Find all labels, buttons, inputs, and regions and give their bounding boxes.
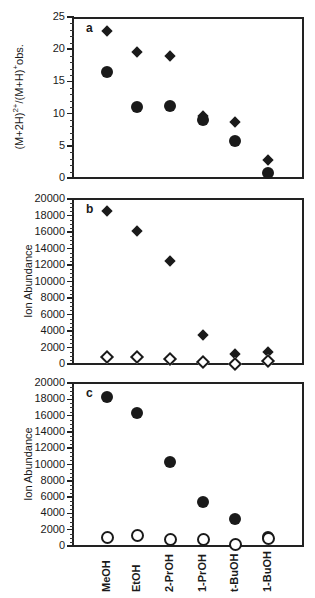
y-minor-tick xyxy=(70,485,74,486)
y-minor-tick xyxy=(70,440,74,441)
y-major-tick xyxy=(67,431,74,433)
y-major-tick xyxy=(67,81,74,83)
y-tick-label: 6000 xyxy=(5,308,65,320)
data-point-open-circle xyxy=(197,533,210,546)
y-major-tick xyxy=(67,447,74,449)
data-point-filled-circle xyxy=(197,496,209,508)
y-minor-tick xyxy=(70,542,74,543)
x-category-label: 1-BuOH xyxy=(261,551,273,592)
y-tick-label: 6000 xyxy=(5,490,65,502)
y-minor-tick xyxy=(70,23,74,24)
y-major-tick xyxy=(67,248,74,250)
y-minor-tick xyxy=(70,327,74,328)
y-major-tick xyxy=(67,231,74,233)
y-minor-tick xyxy=(70,522,74,523)
y-tick-label: 20000 xyxy=(5,376,65,388)
y-tick-label: 10000 xyxy=(5,275,65,287)
y-minor-tick xyxy=(70,343,74,344)
y-minor-tick xyxy=(70,30,74,31)
y-tick-label: 18000 xyxy=(5,392,65,404)
y-major-tick xyxy=(67,48,74,50)
data-point-filled-circle xyxy=(164,456,176,468)
y-minor-tick xyxy=(70,360,74,361)
y-tick-label: 5 xyxy=(5,139,65,151)
x-category-label: 2-PrOH xyxy=(163,554,175,592)
y-major-tick xyxy=(67,464,74,466)
panel-a-letter: a xyxy=(86,21,93,35)
y-tick-label: 4000 xyxy=(5,324,65,336)
panel-b-letter: b xyxy=(86,202,93,216)
y-minor-tick xyxy=(70,436,74,437)
y-minor-tick xyxy=(70,269,74,270)
x-category-label: t-BuOH xyxy=(228,554,240,593)
y-minor-tick xyxy=(70,460,74,461)
y-minor-tick xyxy=(70,133,74,134)
y-minor-tick xyxy=(70,211,74,212)
y-minor-tick xyxy=(70,224,74,225)
y-major-tick xyxy=(67,480,74,482)
y-minor-tick xyxy=(70,159,74,160)
y-minor-tick xyxy=(70,75,74,76)
y-minor-tick xyxy=(70,107,74,108)
y-minor-tick xyxy=(70,473,74,474)
y-major-tick xyxy=(67,297,74,299)
data-point-open-circle xyxy=(229,538,242,551)
y-minor-tick xyxy=(70,387,74,388)
y-minor-tick xyxy=(70,335,74,336)
y-major-tick xyxy=(67,496,74,498)
y-minor-tick xyxy=(70,240,74,241)
data-point-filled-circle xyxy=(101,391,113,403)
y-minor-tick xyxy=(70,286,74,287)
y-minor-tick xyxy=(70,517,74,518)
y-minor-tick xyxy=(70,120,74,121)
y-tick-label: 14000 xyxy=(5,425,65,437)
y-minor-tick xyxy=(70,339,74,340)
y-major-tick xyxy=(67,399,74,401)
y-minor-tick xyxy=(70,43,74,44)
y-minor-tick xyxy=(70,352,74,353)
y-major-tick xyxy=(67,215,74,217)
y-major-tick xyxy=(67,529,74,531)
y-major-tick xyxy=(67,415,74,417)
y-major-tick xyxy=(67,314,74,316)
y-tick-label: 16000 xyxy=(5,225,65,237)
y-minor-tick xyxy=(70,126,74,127)
x-category-label: EtOH xyxy=(130,565,142,593)
y-minor-tick xyxy=(70,101,74,102)
y-tick-label: 10 xyxy=(5,107,65,119)
y-minor-tick xyxy=(70,302,74,303)
y-minor-tick xyxy=(70,165,74,166)
y-minor-tick xyxy=(70,273,74,274)
y-tick-label: 20000 xyxy=(5,192,65,204)
data-point-filled-circle xyxy=(101,66,113,78)
y-minor-tick xyxy=(70,501,74,502)
y-minor-tick xyxy=(70,139,74,140)
y-minor-tick xyxy=(70,172,74,173)
y-minor-tick xyxy=(70,253,74,254)
y-major-tick xyxy=(67,545,74,547)
y-minor-tick xyxy=(70,424,74,425)
y-minor-tick xyxy=(70,36,74,37)
y-tick-label: 12000 xyxy=(5,258,65,270)
panel-c-letter: c xyxy=(86,386,93,400)
y-minor-tick xyxy=(70,469,74,470)
y-minor-tick xyxy=(70,310,74,311)
y-major-tick xyxy=(67,347,74,349)
y-tick-label: 20 xyxy=(5,42,65,54)
y-tick-label: 14000 xyxy=(5,242,65,254)
y-minor-tick xyxy=(70,306,74,307)
data-point-open-circle xyxy=(262,532,275,545)
y-minor-tick xyxy=(70,294,74,295)
panel-c-plot-area: c xyxy=(72,382,304,547)
y-minor-tick xyxy=(70,403,74,404)
y-minor-tick xyxy=(70,505,74,506)
y-major-tick xyxy=(67,382,74,384)
y-minor-tick xyxy=(70,257,74,258)
y-tick-label: 10000 xyxy=(5,458,65,470)
y-major-tick xyxy=(67,198,74,200)
y-minor-tick xyxy=(70,56,74,57)
y-minor-tick xyxy=(70,534,74,535)
y-tick-label: 12000 xyxy=(5,441,65,453)
y-minor-tick xyxy=(70,62,74,63)
x-category-label: MeOH xyxy=(100,560,112,592)
